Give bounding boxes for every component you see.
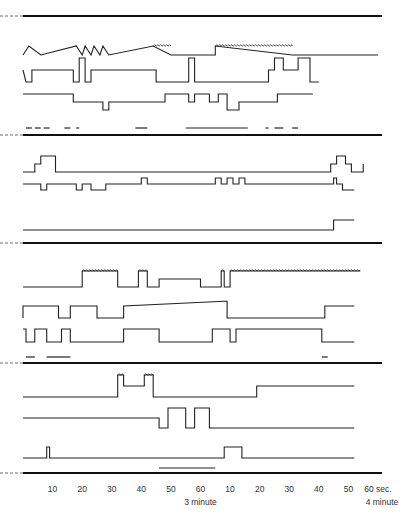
x-tick-label-9: 40: [314, 484, 324, 494]
x-tick-label-7: 20: [255, 484, 265, 494]
x-tick-label-8: 30: [285, 484, 295, 494]
panel-3-trace-2: [23, 301, 354, 318]
panel-1-trace-1-noise-0: [153, 45, 171, 46]
x-tick-label-6: 10: [225, 484, 235, 494]
event-trace-chart: 1020304050603 minute102030405060 sec.4 m…: [0, 0, 414, 526]
panel-2-trace-1: [23, 156, 363, 172]
panel-2-trace-2: [23, 178, 354, 190]
panel-1-trace-3: [23, 94, 313, 110]
panel-2-trace-3: [23, 220, 354, 230]
x-tick-label-4: 50: [166, 484, 176, 494]
panel-4-trace-2: [23, 408, 354, 428]
x-tick-label-2: 30: [107, 484, 117, 494]
x-tick-label-11: 60 sec.: [364, 484, 391, 494]
panel-3-trace-1-noise-0: [82, 270, 118, 271]
panel-4-trace-1: [23, 375, 354, 397]
x-tick-label-0: 10: [48, 484, 58, 494]
panel-4-trace-3: [23, 447, 354, 458]
panel-1-trace-2: [23, 58, 319, 82]
panel-3-trace-3: [23, 329, 354, 342]
x-tick-sublabel-11: 4 minute: [366, 497, 399, 507]
panel-1-trace-1-noise-1: [215, 45, 292, 46]
x-tick-label-3: 40: [137, 484, 147, 494]
panel-3-trace-1: [23, 271, 360, 287]
x-tick-label-10: 50: [344, 484, 354, 494]
x-tick-label-1: 20: [77, 484, 87, 494]
x-tick-label-5: 60: [196, 484, 206, 494]
x-tick-sublabel-5: 3 minute: [184, 497, 217, 507]
panel-1-trace-1: [23, 46, 378, 55]
